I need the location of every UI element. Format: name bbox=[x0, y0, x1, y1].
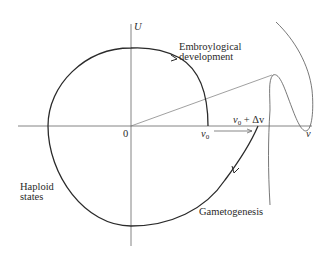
development-cycle-curve bbox=[48, 48, 258, 226]
gametogenesis-label: Gametogenesis bbox=[199, 207, 263, 217]
diagram-canvas bbox=[0, 0, 327, 255]
origin-label: 0 bbox=[123, 129, 128, 139]
v0-delta-symbol: v bbox=[233, 114, 238, 125]
haploid-label: Haploid states bbox=[20, 182, 54, 202]
v-axis-label: v bbox=[306, 129, 311, 139]
v0-delta-label: v0 + Δv bbox=[233, 115, 264, 126]
embryo-label-line2: development bbox=[179, 52, 241, 62]
v0-label: v0 bbox=[201, 129, 209, 140]
haploid-label-line2: states bbox=[20, 192, 54, 202]
v0-delta-suffix: + Δv bbox=[241, 114, 264, 125]
u-axis-label: U bbox=[134, 22, 142, 32]
potential-curve bbox=[269, 22, 313, 205]
v0-subscript: 0 bbox=[206, 133, 210, 141]
v0-symbol: v bbox=[201, 128, 206, 139]
v0-delta-subscript: 0 bbox=[238, 119, 242, 127]
embryo-label: Embroylogical development bbox=[179, 42, 241, 62]
arrow-gametogenesis-icon bbox=[232, 166, 239, 173]
